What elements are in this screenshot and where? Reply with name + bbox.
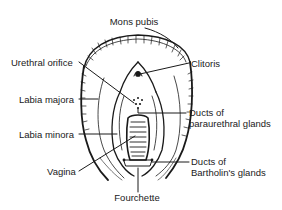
label-ducts-paraurethral-line1: Ducts of <box>189 107 271 118</box>
label-urethral-orifice: Urethral orifice <box>11 57 73 68</box>
label-clitoris: Clitoris <box>191 58 220 69</box>
label-mons-pubis: Mons pubis <box>110 16 159 27</box>
anatomy-diagram: Mons pubis Urethral orifice Clitoris Lab… <box>0 0 282 210</box>
label-ducts-paraurethral: Ducts of paraurethral glands <box>189 107 271 129</box>
label-ducts-bartholin-line1: Ducts of <box>191 156 266 167</box>
label-labia-majora: Labia majora <box>19 94 74 105</box>
label-ducts-bartholin: Ducts of Bartholin's glands <box>191 156 266 178</box>
label-fourchette: Fourchette <box>114 192 159 203</box>
labia-minora <box>112 92 164 176</box>
clitoris-hood <box>120 62 156 92</box>
label-labia-minora: Labia minora <box>19 129 74 140</box>
label-ducts-paraurethral-line2: paraurethral glands <box>189 118 271 129</box>
label-vagina: Vagina <box>47 166 76 177</box>
vulva-illustration <box>0 0 282 210</box>
label-ducts-bartholin-line2: Bartholin's glands <box>191 167 266 178</box>
